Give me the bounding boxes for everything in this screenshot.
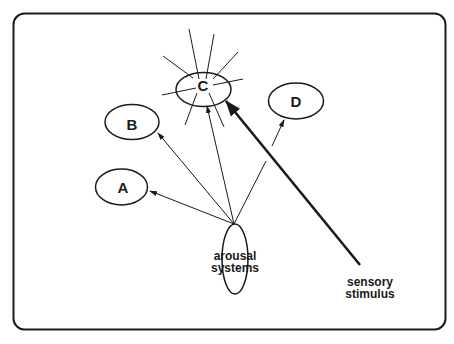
stimulus-label-line2: stimulus (340, 288, 400, 300)
sensory-stimulus-label: sensory stimulus (340, 276, 400, 300)
node-a-label: A (103, 180, 143, 195)
node-d-label: D (276, 94, 316, 109)
node-c-label: C (183, 78, 223, 93)
arousal-label-line2: systems (205, 262, 265, 274)
arousal-systems-label: arousal systems (205, 250, 265, 274)
node-b-label: B (112, 117, 152, 132)
diagram-canvas: C B A D arousal systems sensory stimulus (0, 0, 454, 344)
